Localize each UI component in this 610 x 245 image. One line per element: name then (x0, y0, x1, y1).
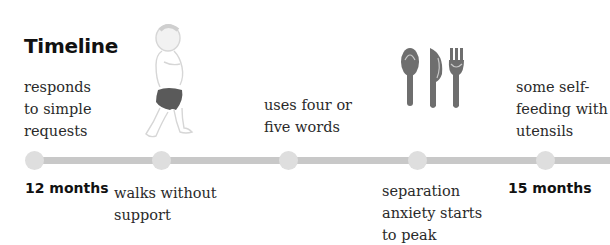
event-line: requests (24, 120, 92, 142)
event-line: to simple (24, 98, 92, 120)
event-line: to peak (382, 224, 482, 245)
event-line: walks without (114, 182, 217, 204)
event-line: five words (264, 116, 352, 138)
event-line: anxiety starts (382, 202, 482, 224)
event-responds: responds to simple requests (24, 76, 92, 142)
event-line: support (114, 204, 217, 226)
event-line: uses four or (264, 94, 352, 116)
timeline-dot (279, 151, 298, 170)
walking-toddler-icon (140, 22, 200, 146)
timeline-line (34, 157, 610, 164)
timeline-dot (536, 151, 555, 170)
event-line: responds (24, 76, 92, 98)
timeline-dot (152, 151, 171, 170)
event-line: some self- (516, 76, 608, 98)
month-label-start: 12 months (25, 180, 109, 196)
event-separation: separation anxiety starts to peak (382, 180, 482, 245)
month-label-end: 15 months (508, 180, 592, 196)
timeline-dot (408, 151, 427, 170)
event-line: separation (382, 180, 482, 202)
event-line: feeding with (516, 98, 608, 120)
event-words: uses four or five words (264, 94, 352, 138)
spoon-knife-fork-icon (398, 48, 494, 114)
event-feeding: some self- feeding with utensils (516, 76, 608, 142)
timeline-title: Timeline (24, 34, 118, 58)
timeline-dot (25, 151, 44, 170)
event-line: utensils (516, 120, 608, 142)
event-walks: walks without support (114, 182, 217, 226)
